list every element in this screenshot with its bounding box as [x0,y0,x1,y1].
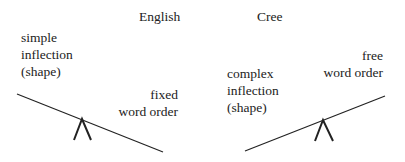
right-fulcrum-icon [315,120,333,141]
label-line: complex [227,65,279,82]
label-line: fixed [105,86,178,103]
cree-lower-label: complex inflection (shape) [227,65,279,116]
english-upper-label: simple inflection (shape) [21,29,73,80]
label-line: simple [21,29,73,46]
label-line: (shape) [21,63,73,80]
label-line: inflection [21,46,73,63]
seesaw-drawing [0,0,405,162]
cree-upper-label: free word order [310,47,383,81]
label-line: free [310,47,383,64]
english-title: English [139,8,180,25]
english-lower-label: fixed word order [105,86,178,120]
label-line: (shape) [227,99,279,116]
label-line: word order [105,103,178,120]
label-line: word order [310,64,383,81]
cree-title: Cree [257,8,282,25]
label-line: inflection [227,82,279,99]
